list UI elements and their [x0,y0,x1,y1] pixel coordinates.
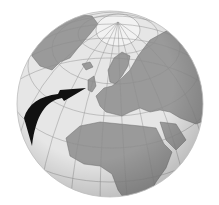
globe-svg [0,0,219,205]
globe-map [0,0,219,205]
madagascar [168,176,172,190]
